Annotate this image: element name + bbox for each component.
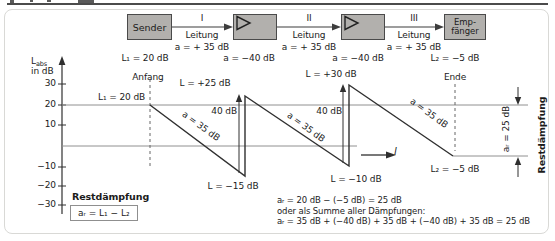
peak-2-label: L = +30 dB — [301, 69, 361, 79]
sender-level-label: L₁ = 20 dB — [110, 53, 180, 63]
formula-text: aᵣ = L₁ − L₂ — [78, 208, 130, 218]
y-tick-m20: −20 — [28, 180, 56, 190]
anfang-label: Anfang — [118, 72, 178, 82]
figure: Sender Emp- fänger I Leitung a = + 35 dB… — [0, 0, 555, 241]
footer-heading: Restdämpfung — [72, 192, 149, 202]
chart-l2-label: L₂ = −5 dB — [420, 164, 490, 174]
residual-title-label: Restdämpfung — [537, 93, 547, 177]
equation-2: oder als Summe aller Dämpfungen: — [277, 206, 425, 216]
sender-label: Sender — [133, 22, 167, 33]
amplifier-icon — [342, 15, 360, 31]
sender-box: Sender — [127, 14, 172, 40]
receiver-level-label: L₂ = −5 dB — [420, 53, 490, 63]
y-axis-unit: in dB — [31, 66, 53, 76]
amplifier-box-2 — [341, 14, 385, 40]
receiver-label: Emp- fänger — [451, 18, 479, 37]
amp-1-gain-label: a = −40 dB — [214, 53, 284, 63]
formula-box: aᵣ = L₁ − L₂ — [70, 205, 138, 221]
gain-2-label: 40 dB — [310, 106, 342, 116]
chart-l1-label: L₁ = 20 dB — [98, 92, 145, 102]
arrow-down-icon — [515, 97, 521, 105]
section-2-numeral: II — [279, 13, 339, 23]
section-2-name: Leitung — [279, 30, 339, 40]
peak-1-label: L = +25 dB — [175, 78, 235, 88]
x-axis-arrow — [361, 152, 396, 159]
ende-label: Ende — [425, 72, 485, 82]
y-tick-20: 20 — [28, 99, 56, 109]
section-2-gain: a = + 35 dB — [279, 42, 339, 52]
trough-2-label: L = −10 dB — [321, 174, 391, 184]
y-tick-m30: −30 — [28, 199, 56, 209]
y-tick-10: 10 — [28, 119, 56, 129]
y-tick-30: 30 — [28, 78, 56, 88]
equation-1: aᵣ = 20 dB − (−5 dB) = 25 dB — [277, 195, 402, 205]
y-axis — [58, 56, 66, 214]
arrow-up-icon — [59, 56, 66, 65]
amp-2-gain-label: a = −40 dB — [323, 53, 393, 63]
y-tick-m10: −10 — [28, 161, 56, 171]
section-1-gain: a = + 35 dB — [172, 42, 232, 52]
residual-value-label: aᵣ = 25 dB — [501, 97, 511, 161]
section-3-gain: a = + 35 dB — [384, 42, 444, 52]
section-3-name: Leitung — [384, 30, 444, 40]
arrow-up-icon — [236, 94, 242, 102]
arrow-up-icon — [340, 84, 346, 92]
section-1-numeral: I — [172, 13, 232, 23]
trough-1-label: L = −15 dB — [198, 181, 268, 191]
arrow-up-icon — [515, 157, 521, 165]
amplifier-icon — [234, 15, 252, 31]
receiver-box: Emp- fänger — [444, 14, 486, 40]
amplifier-box-1 — [233, 14, 277, 40]
section-1-name: Leitung — [172, 30, 232, 40]
residual-dimension-arrow — [515, 87, 521, 177]
gain-arrow-2 — [340, 84, 346, 163]
equation-3: aᵣ = 35 dB + (−40 dB) + 35 dB + (−40 dB)… — [277, 216, 530, 226]
gain-1-label: 40 dB — [205, 106, 237, 116]
section-3-numeral: III — [384, 13, 444, 23]
x-axis-label: l — [394, 147, 397, 157]
